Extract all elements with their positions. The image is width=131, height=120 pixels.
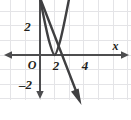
x-tick-label-4: 4 [81,58,89,73]
x-tick-label-2: 2 [52,58,60,73]
coordinate-plane-svg: 2 –2 O 2 4 x [0,0,131,120]
x-axis-label: x [112,39,119,53]
origin-label: O [28,58,37,72]
y-tick-label-negative-2: –2 [18,77,33,92]
graph-figure: 2 –2 O 2 4 x [0,0,131,120]
y-tick-label-2: 2 [23,19,31,34]
